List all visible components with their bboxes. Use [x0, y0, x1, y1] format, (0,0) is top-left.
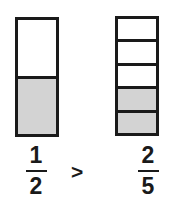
right-bar-cell-1	[118, 19, 156, 42]
right-bar-cell-3	[118, 66, 156, 89]
comparison-row: 1 2 > 2 5	[0, 142, 169, 200]
left-fraction-numerator: 1	[30, 143, 43, 168]
right-bar-cell-2	[118, 42, 156, 65]
left-fraction-denominator: 2	[30, 174, 43, 199]
right-bar-cell-5	[118, 113, 156, 133]
left-bar-model	[15, 17, 59, 137]
right-fraction-label: 2 5	[127, 143, 169, 199]
left-fraction-bar	[26, 170, 47, 172]
left-bar-cell-2	[18, 79, 56, 135]
right-fraction-denominator: 5	[142, 174, 155, 199]
fraction-comparison-diagram: 1 2 > 2 5	[0, 0, 169, 203]
right-bar-cell-4	[118, 89, 156, 112]
left-fraction-label: 1 2	[15, 143, 57, 199]
left-bar-cell-1	[18, 20, 56, 79]
right-fraction-numerator: 2	[142, 143, 155, 168]
right-bar-model	[115, 16, 159, 136]
right-fraction-bar	[138, 170, 159, 172]
